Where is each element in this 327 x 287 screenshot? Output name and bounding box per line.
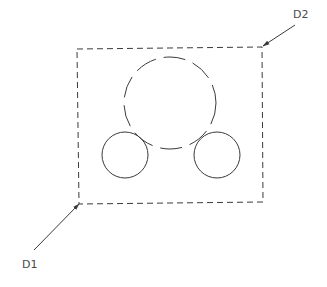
cad-drawing-canvas: D1 D2 — [0, 0, 327, 287]
large-dashed-circle — [124, 57, 216, 149]
small-circle-left — [102, 132, 148, 178]
selection-window-rectangle — [77, 47, 263, 204]
point-label-d1: D1 — [22, 258, 37, 271]
leader-arrow-d1 — [34, 204, 79, 250]
leader-arrow-d2 — [263, 25, 295, 46]
point-label-d2: D2 — [293, 8, 308, 21]
small-circle-right — [194, 132, 240, 178]
